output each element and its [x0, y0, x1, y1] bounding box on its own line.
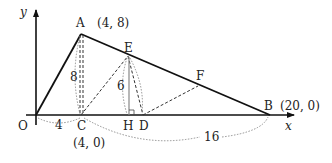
length-CB: 16 — [204, 130, 219, 144]
arc-CB-length — [84, 117, 268, 141]
length-OC: 4 — [55, 118, 63, 132]
x-axis-label: x — [285, 119, 292, 133]
point-A-coords: (4, 8) — [97, 16, 129, 30]
length-AC: 8 — [70, 70, 78, 84]
segment-ED — [128, 56, 143, 115]
point-F-label: F — [196, 69, 204, 83]
geometry-diagram: y x O A (4, 8) E F B (20, 0) C (4, 0) H … — [0, 0, 332, 163]
y-axis-label: y — [19, 5, 27, 19]
point-H-label: H — [123, 119, 133, 133]
segment-AB — [81, 34, 270, 115]
origin-label: O — [18, 119, 28, 133]
point-D-label: D — [139, 119, 149, 133]
point-C-coords: (4, 0) — [73, 136, 105, 150]
point-C-label: C — [77, 119, 86, 133]
point-E-label: E — [124, 41, 133, 55]
point-B-coords: (20, 0) — [280, 99, 320, 113]
segment-DF — [143, 86, 198, 115]
point-B-label: B — [264, 99, 273, 113]
length-EH: 6 — [117, 79, 125, 93]
point-A-label: A — [75, 16, 85, 30]
